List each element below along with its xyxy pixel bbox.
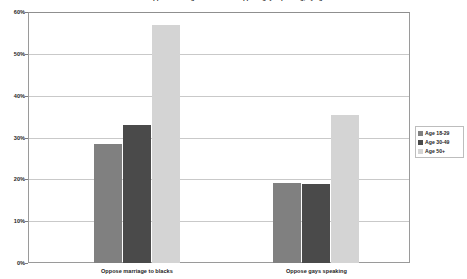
y-axis-tick-marks bbox=[0, 12, 28, 263]
y-axis-tick-mark bbox=[25, 263, 28, 264]
legend-label: Age 30-49 bbox=[425, 139, 450, 145]
legend-swatch-icon bbox=[418, 140, 423, 145]
legend-item[interactable]: Age 50+ bbox=[418, 147, 461, 155]
legend-label: Age 50+ bbox=[425, 148, 445, 154]
legend-swatch-icon bbox=[418, 131, 423, 136]
bar bbox=[302, 184, 330, 263]
legend-swatch-icon bbox=[418, 149, 423, 154]
bar bbox=[123, 125, 151, 263]
legend-item[interactable]: Age 18-29 bbox=[418, 129, 461, 137]
legend: Age 18-29 Age 30-49 Age 50+ bbox=[415, 126, 464, 158]
chart-title: Percent who oppose marriage to blacks an… bbox=[28, 0, 410, 2]
legend-item[interactable]: Age 30-49 bbox=[418, 138, 461, 146]
x-axis-category-label: Oppose gays speaking bbox=[246, 268, 386, 275]
x-axis-category-label: Oppose marriage to blacks bbox=[67, 268, 207, 275]
bar bbox=[152, 25, 180, 263]
legend-label: Age 18-29 bbox=[425, 130, 450, 136]
bars-layer bbox=[28, 12, 410, 263]
bar bbox=[94, 144, 122, 263]
bar bbox=[331, 115, 359, 263]
bar bbox=[273, 183, 301, 263]
bar-chart: Percent who oppose marriage to blacks an… bbox=[0, 0, 467, 279]
